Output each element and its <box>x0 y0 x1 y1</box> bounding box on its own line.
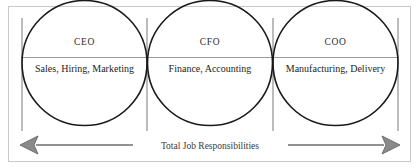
role-label-coo: COO <box>325 37 347 47</box>
axis-label: Total Job Responsibilities <box>161 141 259 151</box>
duty-label-ceo: Sales, Hiring, Marketing <box>35 63 134 74</box>
duty-label-coo: Manufacturing, Delivery <box>286 63 385 74</box>
role-label-ceo: CEO <box>74 37 95 47</box>
job-responsibilities-diagram: CEO CFO COO Sales, Hiring, Marketing Fin… <box>0 0 420 168</box>
role-label-cfo: CFO <box>200 37 220 47</box>
diagram-frame <box>9 7 411 162</box>
duty-label-cfo: Finance, Accounting <box>169 63 252 74</box>
diagram-canvas: CEO CFO COO Sales, Hiring, Marketing Fin… <box>0 0 420 168</box>
